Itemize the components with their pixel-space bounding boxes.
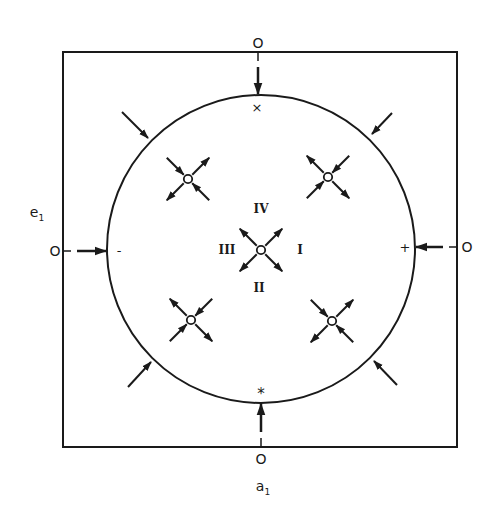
- x-axis-subscript: 1: [264, 487, 270, 497]
- phase-portrait-svg: [0, 0, 492, 518]
- right-plus-marker: +: [400, 241, 411, 254]
- trajectory-in-se: [192, 183, 209, 200]
- region-II-label: II: [253, 282, 264, 294]
- fixed-points: [167, 156, 353, 342]
- trajectory-in-nw: [167, 158, 184, 175]
- phase-portrait-diagram: e1 a1 O O O O × * - + I II III IV: [0, 0, 492, 518]
- region-III-label: III: [219, 244, 236, 256]
- trajectory-out-sw: [240, 254, 257, 271]
- trajectory-out-nw: [170, 299, 187, 316]
- fixed-point-upper-right: [307, 156, 349, 198]
- bottom-zero-label: O: [255, 452, 266, 466]
- left-minus-marker: -: [117, 244, 122, 257]
- outer-arrow-nw: [122, 112, 148, 138]
- trajectory-out-nw: [307, 156, 324, 173]
- y-axis-label: e1: [30, 205, 44, 223]
- x-axis-letter: a: [256, 478, 265, 494]
- region-I-label: I: [297, 244, 303, 256]
- fixed-point-upper-left: [167, 158, 209, 200]
- left-zero-label: O: [49, 244, 60, 258]
- trajectory-in-sw: [307, 181, 324, 198]
- trajectory-out-ne: [336, 300, 353, 317]
- fixed-point-lower-right-marker: [328, 317, 336, 325]
- fixed-point-lower-left-marker: [187, 316, 195, 324]
- trajectory-in-sw: [170, 324, 187, 341]
- trajectory-in-ne: [332, 156, 349, 173]
- trajectory-out-nw: [240, 229, 257, 246]
- trajectory-out-sw: [311, 325, 328, 342]
- top-cross-marker: ×: [252, 101, 263, 114]
- x-axis-label: a1: [256, 479, 270, 497]
- outer-arrow-ne: [372, 113, 392, 134]
- trajectory-out-se: [195, 324, 212, 341]
- trajectory-out-se: [332, 181, 349, 198]
- trajectory-in-nw: [311, 300, 328, 317]
- trajectory-in-ne: [195, 299, 212, 316]
- right-zero-label: O: [461, 240, 472, 254]
- fixed-point-upper-right-marker: [324, 173, 332, 181]
- trajectory-out-ne: [192, 158, 209, 175]
- fixed-point-upper-left-marker: [184, 175, 192, 183]
- fixed-point-center: [240, 229, 282, 271]
- region-IV-label: IV: [254, 203, 269, 215]
- trajectory-out-sw: [167, 183, 184, 200]
- outer-arrow-sw: [128, 362, 151, 387]
- top-zero-label: O: [252, 36, 263, 50]
- y-axis-letter: e: [30, 204, 39, 220]
- bottom-star-marker: *: [257, 387, 265, 402]
- outer-arrow-se: [374, 361, 397, 385]
- trajectory-out-ne: [265, 229, 282, 246]
- trajectory-in-se: [336, 325, 353, 342]
- fixed-point-center-marker: [257, 246, 265, 254]
- y-axis-subscript: 1: [38, 213, 44, 223]
- fixed-point-lower-right: [311, 300, 353, 342]
- fixed-point-lower-left: [170, 299, 212, 341]
- trajectory-out-se: [265, 254, 282, 271]
